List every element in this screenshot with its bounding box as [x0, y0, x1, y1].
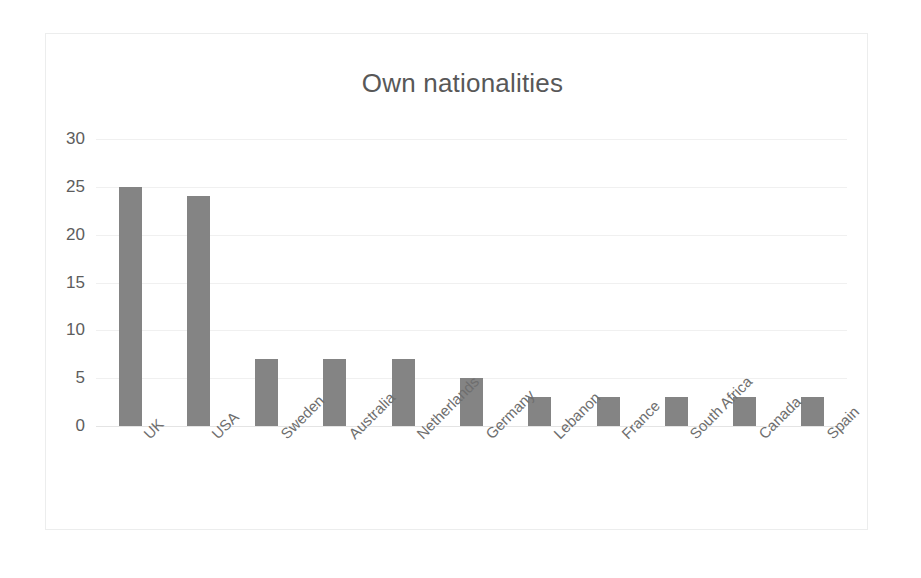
y-tick-label-30: 30: [66, 129, 85, 149]
y-tick-label-25: 25: [66, 177, 85, 197]
y-tick-label-15: 15: [66, 273, 85, 293]
bar-uk: [119, 187, 142, 426]
chart-title: Own nationalities: [51, 68, 874, 99]
y-tick-label-20: 20: [66, 225, 85, 245]
bar-sweden: [255, 359, 278, 426]
y-tick-label-0: 0: [76, 416, 85, 436]
y-tick-label-5: 5: [76, 368, 85, 388]
y-tick-label-10: 10: [66, 320, 85, 340]
bar-australia: [323, 359, 346, 426]
gridline-0: [96, 426, 847, 427]
x-axis-category-labels: UKUSASwedenAustraliaNetherlandsGermanyLe…: [96, 430, 847, 550]
bar-south-africa: [665, 397, 688, 426]
chart-frame: Own nationalities 051015202530 UKUSASwed…: [45, 33, 868, 530]
bar-netherlands: [392, 359, 415, 426]
bar-spain: [801, 397, 824, 426]
bar-usa: [187, 196, 210, 426]
